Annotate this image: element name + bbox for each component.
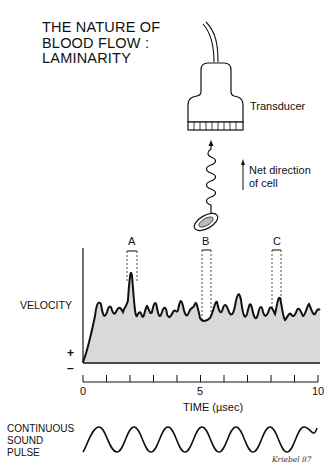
reflected-wave-icon xyxy=(207,140,216,213)
net-direction-label: Net direction of cell xyxy=(249,164,311,190)
transducer-icon xyxy=(188,63,243,130)
minus-sign: – xyxy=(67,361,74,375)
transducer-label: Transducer xyxy=(250,100,305,112)
artist-signature: Kriebel 87 xyxy=(272,455,312,464)
sound-pulse-line-2: SOUND xyxy=(7,435,74,447)
marker-boxes xyxy=(127,250,281,320)
blood-cell-icon xyxy=(191,210,220,234)
transducer-cable xyxy=(203,22,218,62)
sound-pulse-line-1: CONTINUOUS xyxy=(7,423,74,435)
marker-b-label: B xyxy=(202,235,209,247)
net-direction-line-1: Net direction xyxy=(249,164,311,177)
diagram-canvas xyxy=(0,0,335,470)
marker-a-label: A xyxy=(128,235,135,247)
xtick-label-5: 5 xyxy=(197,385,203,397)
plus-sign: + xyxy=(67,346,74,360)
xtick-label-0: 0 xyxy=(80,385,86,397)
time-axis-label: TIME (µsec) xyxy=(183,401,243,413)
velocity-axis-label: VELOCITY xyxy=(20,299,72,311)
marker-box-b xyxy=(202,250,211,320)
sound-pulse-label: CONTINUOUS SOUND PULSE xyxy=(7,423,74,459)
time-scale-ruler xyxy=(83,375,318,382)
net-direction-line-2: of cell xyxy=(249,177,311,190)
velocity-trace xyxy=(83,273,320,362)
xtick-label-10: 10 xyxy=(312,385,324,397)
sound-pulse-wave xyxy=(83,427,317,452)
marker-c-label: C xyxy=(273,235,281,247)
net-direction-arrow-icon xyxy=(241,159,245,190)
sound-pulse-line-3: PULSE xyxy=(7,447,74,459)
